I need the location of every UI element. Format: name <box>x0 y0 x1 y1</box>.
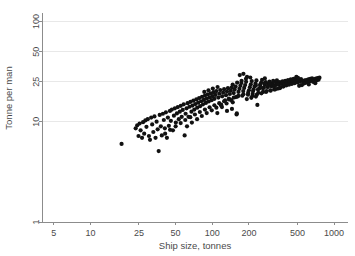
data-point <box>140 136 144 140</box>
data-point <box>238 73 242 77</box>
data-point <box>224 93 228 97</box>
data-point <box>167 124 171 128</box>
data-point <box>251 89 255 93</box>
data-point <box>179 121 183 125</box>
y-tick-label: 1 <box>31 219 41 224</box>
data-point <box>166 115 170 119</box>
x-tick-label: 500 <box>290 228 305 238</box>
data-point <box>148 138 152 142</box>
data-point <box>232 95 236 99</box>
data-point <box>164 110 168 114</box>
data-point <box>188 115 192 119</box>
data-point <box>174 120 178 124</box>
x-tick-label: 1000 <box>324 228 344 238</box>
y-tick-label: 10 <box>31 117 41 127</box>
data-point <box>261 86 265 90</box>
data-point <box>217 101 221 105</box>
data-point <box>263 76 267 80</box>
data-point <box>203 108 207 112</box>
x-tick-label: 25 <box>134 228 144 238</box>
data-point <box>181 108 185 112</box>
data-point <box>231 82 235 86</box>
data-point <box>193 112 197 116</box>
data-point <box>150 122 154 126</box>
data-point <box>190 120 194 124</box>
data-point <box>174 124 178 128</box>
data-point <box>269 89 273 93</box>
data-point <box>151 130 155 134</box>
data-point <box>317 76 321 80</box>
data-point <box>144 125 148 129</box>
data-point <box>215 111 219 115</box>
data-point <box>198 110 202 114</box>
data-point <box>159 124 163 128</box>
data-point <box>168 128 172 132</box>
data-point <box>180 115 184 119</box>
data-point <box>220 94 224 98</box>
data-point <box>142 132 146 136</box>
data-point <box>227 97 231 101</box>
data-point <box>272 84 276 88</box>
data-point <box>222 99 226 103</box>
data-point <box>264 90 268 94</box>
y-tick-label: 50 <box>31 47 41 57</box>
data-point <box>249 96 253 100</box>
data-point <box>153 136 157 140</box>
data-point <box>244 77 248 81</box>
data-point <box>183 118 187 122</box>
data-point <box>212 103 216 107</box>
x-tick-label: 50 <box>171 228 181 238</box>
data-point <box>263 81 267 85</box>
data-point <box>202 90 206 94</box>
data-point <box>225 109 229 113</box>
y-tick-label: 25 <box>31 77 41 87</box>
data-point <box>246 91 250 95</box>
data-point <box>235 81 239 85</box>
data-point <box>163 126 167 130</box>
data-point <box>215 85 219 89</box>
data-point <box>185 124 189 128</box>
data-point <box>296 76 300 80</box>
x-tick-label: 10 <box>85 228 95 238</box>
data-point <box>139 128 143 132</box>
data-point <box>195 117 199 121</box>
data-point <box>256 88 260 92</box>
data-point <box>236 94 240 98</box>
data-point <box>152 114 156 118</box>
x-tick-label: 100 <box>205 228 220 238</box>
data-point <box>230 107 234 111</box>
x-tick-label: 5 <box>51 228 56 238</box>
data-point <box>200 114 204 118</box>
data-point <box>245 97 249 101</box>
data-point <box>207 105 211 109</box>
data-point <box>241 72 245 76</box>
figure-background <box>0 0 355 256</box>
data-point <box>165 136 169 140</box>
data-point <box>183 133 187 137</box>
data-point <box>163 132 167 136</box>
data-point <box>155 120 159 124</box>
x-tick-label: 200 <box>241 228 256 238</box>
data-point <box>259 91 263 95</box>
data-point <box>182 102 186 106</box>
data-point <box>307 82 311 86</box>
data-point <box>248 75 252 79</box>
scatter-plot-svg: 1102550100 51025501002005001000 Ship siz… <box>0 0 355 256</box>
data-point <box>250 79 254 83</box>
data-point <box>211 86 215 90</box>
data-point <box>268 81 272 85</box>
data-point <box>216 95 220 99</box>
data-point <box>258 82 262 86</box>
data-point <box>235 111 239 115</box>
chart-figure: 1102550100 51025501002005001000 Ship siz… <box>0 0 355 256</box>
data-point <box>254 78 258 82</box>
data-point <box>212 97 216 101</box>
data-point <box>241 92 245 96</box>
data-point <box>156 127 160 131</box>
x-axis-title: Ship size, tonnes <box>159 240 232 251</box>
data-point <box>313 81 317 85</box>
data-point <box>169 119 173 123</box>
data-point <box>162 118 166 122</box>
data-point <box>240 79 244 83</box>
data-point <box>254 95 258 99</box>
